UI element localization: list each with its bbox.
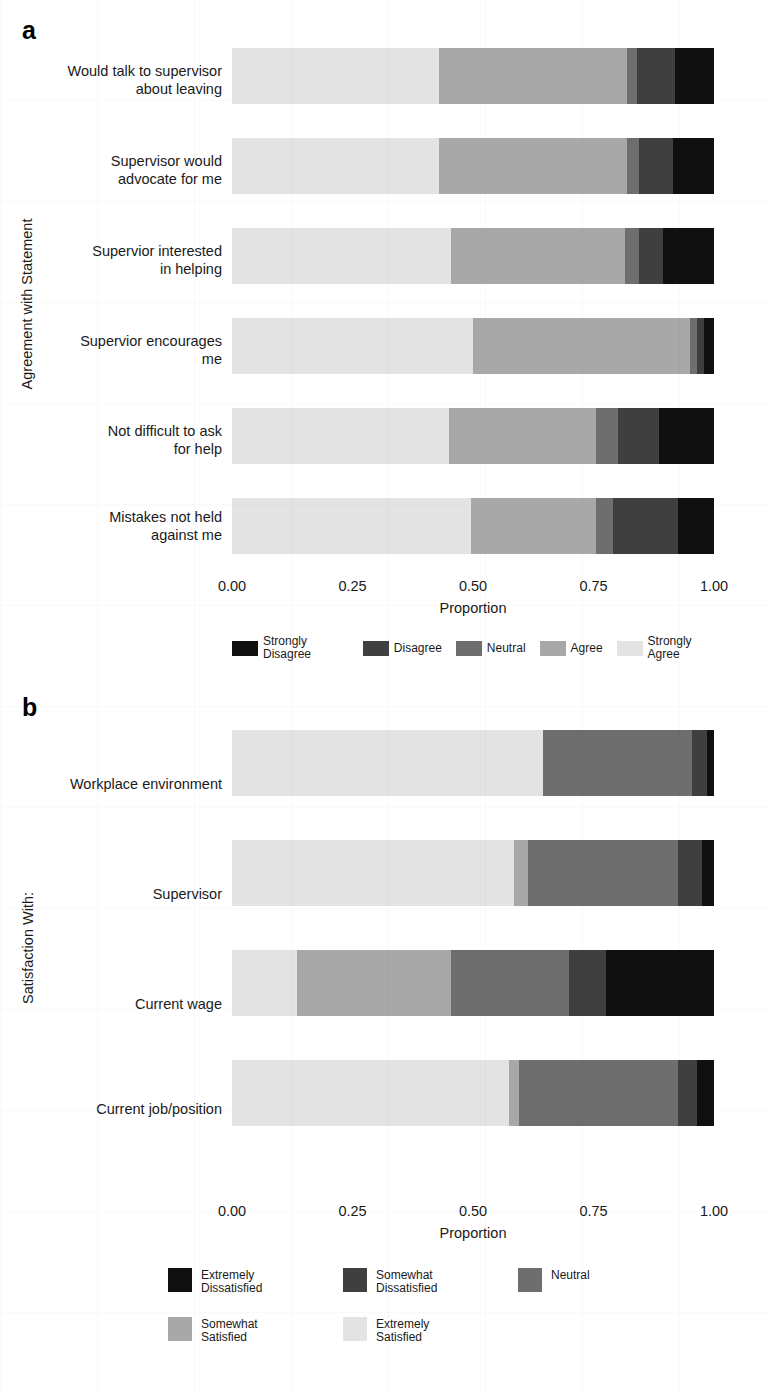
- bar-segment: [449, 408, 596, 464]
- legend-swatch-icon: [168, 1268, 192, 1292]
- panel-b: b Satisfaction With: Workplace environme…: [0, 680, 768, 1395]
- legend-item[interactable]: Neutral: [456, 641, 526, 656]
- panel-a-legend: Strongly DisagreeDisagreeNeutralAgreeStr…: [232, 638, 732, 658]
- bar-segment: [627, 138, 639, 194]
- legend-swatch-icon: [540, 641, 566, 656]
- panel-a-category-label-4: Not difficult to ask for help: [18, 422, 222, 458]
- legend-swatch-icon: [343, 1268, 367, 1292]
- panel-a: a Agreement with Statement Would talk to…: [0, 0, 768, 680]
- panel-a-category-label-0: Would talk to supervisor about leaving: [18, 62, 222, 98]
- bar-segment: [543, 730, 692, 796]
- bar-segment: [637, 48, 676, 104]
- panel-b-category-label-3: Current job/position: [8, 1100, 222, 1118]
- panel-a-x-tick-labels: 0.000.250.500.751.00: [232, 578, 714, 598]
- panel-a-x-axis-title: Proportion: [232, 600, 714, 616]
- bar-segment: [613, 498, 678, 554]
- bar-segment: [232, 138, 439, 194]
- bar-segment: [625, 228, 639, 284]
- legend-label: Neutral: [487, 642, 526, 655]
- panel-a-category-label-3: Supervior encourages me: [18, 332, 222, 368]
- bar-segment: [663, 228, 714, 284]
- bar-segment: [232, 730, 543, 796]
- x-tick-label: 1.00: [684, 1203, 744, 1219]
- bar-segment: [232, 1060, 509, 1126]
- bar-segment: [232, 950, 297, 1016]
- panel-b-x-axis-title: Proportion: [232, 1225, 714, 1241]
- bar-segment: [232, 408, 449, 464]
- bar-segment: [528, 840, 677, 906]
- panel-a-category-label-1: Supervisor would advocate for me: [18, 152, 222, 188]
- legend-label: Strongly Agree: [648, 635, 718, 661]
- panel-b-x-tick-labels: 0.000.250.500.751.00: [232, 1203, 714, 1223]
- bar-segment: [451, 950, 569, 1016]
- bar-bars-b-1: [232, 840, 714, 906]
- legend-row: Extremely DissatisfiedSomewhat Dissatisf…: [168, 1268, 728, 1295]
- legend-swatch-icon: [363, 641, 389, 656]
- legend-item[interactable]: Extremely Dissatisfied: [168, 1268, 343, 1295]
- x-tick-label: 0.50: [443, 578, 503, 594]
- legend-item[interactable]: Strongly Disagree: [232, 635, 349, 661]
- panel-b-category-label-2: Current wage: [8, 995, 222, 1013]
- bar-segment: [704, 318, 714, 374]
- panel-a-category-label-2: Supervior interested in helping: [18, 242, 222, 278]
- bar-segment: [471, 498, 596, 554]
- bar-bars-a-3: [232, 318, 714, 374]
- x-tick-label: 0.00: [202, 578, 262, 594]
- bar-segment: [509, 1060, 519, 1126]
- bar-segment: [678, 498, 714, 554]
- bar-segment: [618, 408, 659, 464]
- bar-segment: [606, 950, 714, 1016]
- bar-segment: [439, 48, 627, 104]
- bar-segment: [569, 950, 605, 1016]
- legend-swatch-icon: [343, 1317, 367, 1341]
- bar-segment: [596, 498, 613, 554]
- bar-bars-a-4: [232, 408, 714, 464]
- panel-b-legend: Extremely DissatisfiedSomewhat Dissatisf…: [168, 1268, 728, 1378]
- legend-item[interactable]: Extremely Satisfied: [343, 1317, 518, 1344]
- bar-segment: [678, 840, 702, 906]
- bar-segment: [627, 48, 637, 104]
- legend-swatch-icon: [617, 641, 643, 656]
- x-tick-label: 0.25: [323, 578, 383, 594]
- legend-swatch-icon: [518, 1268, 542, 1292]
- bar-segment: [639, 138, 673, 194]
- bar-bars-a-2: [232, 228, 714, 284]
- bar-segment: [232, 840, 514, 906]
- bar-segment: [232, 498, 471, 554]
- bar-segment: [697, 318, 704, 374]
- bar-segment: [673, 138, 714, 194]
- legend-item[interactable]: Somewhat Dissatisfied: [343, 1268, 518, 1295]
- legend-item[interactable]: Neutral: [518, 1268, 693, 1292]
- bar-segment: [639, 228, 663, 284]
- bar-bars-b-2: [232, 950, 714, 1016]
- legend-swatch-icon: [232, 641, 258, 656]
- bar-segment: [675, 48, 714, 104]
- legend-label: Disagree: [394, 642, 442, 655]
- bar-segment: [697, 1060, 714, 1126]
- bar-segment: [678, 1060, 697, 1126]
- bar-bars-a-1: [232, 138, 714, 194]
- bar-segment: [232, 228, 451, 284]
- legend-item[interactable]: Strongly Agree: [617, 635, 718, 661]
- x-tick-label: 0.75: [564, 578, 624, 594]
- bar-segment: [702, 840, 714, 906]
- legend-label: Extremely Dissatisfied: [201, 1268, 262, 1295]
- x-tick-label: 0.75: [564, 1203, 624, 1219]
- bar-bars-a-0: [232, 48, 714, 104]
- x-tick-label: 0.25: [323, 1203, 383, 1219]
- bar-segment: [451, 228, 625, 284]
- legend-item[interactable]: Disagree: [363, 641, 442, 656]
- legend-label: Strongly Disagree: [263, 635, 349, 661]
- legend-row: Somewhat SatisfiedExtremely Satisfied: [168, 1317, 728, 1344]
- legend-item[interactable]: Somewhat Satisfied: [168, 1317, 343, 1344]
- bar-segment: [473, 318, 690, 374]
- legend-label: Neutral: [551, 1268, 590, 1282]
- panel-a-y-axis-title: Agreement with Statement: [19, 209, 35, 399]
- bar-segment: [596, 408, 618, 464]
- bar-segment: [439, 138, 627, 194]
- bar-segment: [519, 1060, 678, 1126]
- legend-item[interactable]: Agree: [540, 641, 603, 656]
- legend-label: Agree: [571, 642, 603, 655]
- legend-label: Somewhat Dissatisfied: [376, 1268, 437, 1295]
- figure-root: a Agreement with Statement Would talk to…: [0, 0, 768, 1395]
